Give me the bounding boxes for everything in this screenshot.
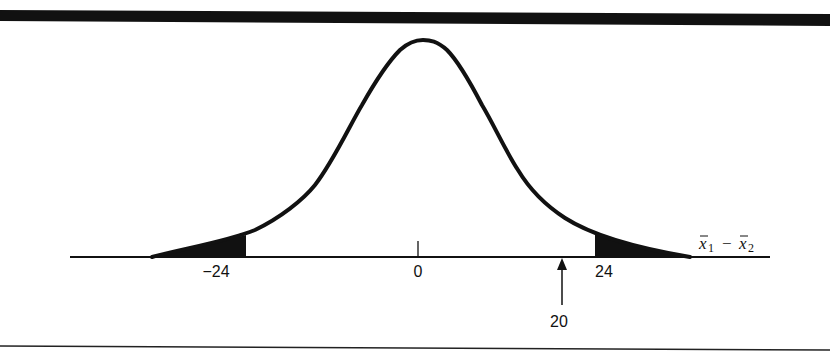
axis-var-x1: x [698,234,707,253]
sampling-distribution-diagram: −24 0 24 20 x 1 − x 2 [0,0,830,357]
axis-var-x2-sub: 2 [748,241,754,255]
axis-var-x2: x [738,234,747,253]
tick-label-24: 24 [595,263,613,280]
top-border-rule [0,10,830,26]
bottom-border-rule [0,346,830,350]
normal-curve [152,40,690,257]
axis-var-minus: − [722,234,732,253]
axis-variable-label: x 1 − x 2 [698,234,754,255]
tick-label-0: 0 [414,263,423,280]
observed-value-label: 20 [550,313,568,330]
tick-label-neg24: −24 [202,263,229,280]
axis-var-x1-sub: 1 [708,241,714,255]
